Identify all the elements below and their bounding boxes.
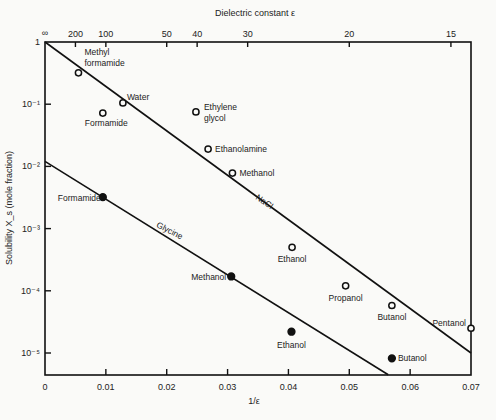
y-axis-ticks: 110⁻¹10⁻²10⁻³10⁻⁴10⁻⁵	[21, 37, 51, 358]
point-label: Formamide	[58, 193, 101, 203]
x-axis-label: 1/ε	[248, 396, 260, 406]
y-tick-label: 10⁻⁴	[21, 286, 40, 296]
y-tick-label: 10⁻²	[22, 161, 40, 171]
y-tick-label: 10⁻¹	[22, 99, 40, 109]
x-tick-label: 0.04	[280, 382, 298, 392]
point-label: Pentanol	[432, 318, 466, 328]
x-tick-label: 0.07	[462, 382, 480, 392]
data-point-nacl	[205, 146, 211, 152]
data-point-nacl	[75, 70, 81, 76]
x-tick-label: 0.03	[219, 382, 237, 392]
data-point-nacl	[100, 110, 106, 116]
data-point-glycine	[228, 273, 235, 280]
data-point-nacl	[120, 100, 126, 106]
point-label: Ethanol	[277, 340, 306, 350]
top-tick-label: 40	[192, 29, 202, 39]
data-point-nacl	[343, 283, 349, 289]
point-label: Ethyleneglycol	[204, 102, 237, 123]
data-point-nacl	[229, 170, 235, 176]
point-label: Formamide	[85, 118, 128, 128]
x-tick-label: 0.06	[401, 382, 419, 392]
top-tick-label: ∞	[42, 28, 48, 38]
x-axis-ticks: 00.010.020.030.040.050.060.07	[42, 369, 479, 392]
top-tick-label: 100	[98, 29, 113, 39]
top-tick-label: 200	[68, 29, 83, 39]
top-axis-ticks: ∞2001005040302015	[42, 28, 456, 47]
point-label: Water	[127, 92, 150, 102]
series-annotations: NaClGlycine	[155, 192, 275, 241]
regression-lines	[45, 42, 471, 375]
data-point-nacl	[468, 325, 474, 331]
x-tick-label: 0.01	[97, 382, 115, 392]
top-axis-label: Dielectric constant ε	[215, 8, 295, 18]
top-tick-label: 15	[446, 29, 456, 39]
y-tick-label: 10⁻³	[22, 224, 40, 234]
data-point-nacl	[289, 244, 295, 250]
point-label: Propanol	[329, 293, 363, 303]
x-tick-label: 0.05	[341, 382, 359, 392]
data-point-glycine	[288, 328, 295, 335]
data-point-nacl	[389, 302, 395, 308]
point-label: Butanol	[377, 312, 406, 322]
plot-frame	[45, 42, 471, 375]
top-tick-label: 30	[243, 29, 253, 39]
x-tick-label: 0.02	[158, 382, 176, 392]
top-tick-label: 20	[344, 29, 354, 39]
data-point-glycine	[388, 355, 395, 362]
point-label: Methylformamide	[84, 47, 124, 68]
point-label: Ethanol	[278, 254, 307, 264]
point-label: Ethanolamine	[215, 144, 267, 154]
y-axis-label: Solubility X_s (mole fraction)	[4, 151, 14, 265]
point-label: Methanol	[191, 272, 226, 282]
point-label: Butanol	[398, 353, 427, 363]
solubility-chart: Dielectric constant ε ∞2001005040302015 …	[0, 0, 496, 420]
x-tick-label: 0	[42, 382, 47, 392]
data-point-nacl	[193, 109, 199, 115]
y-tick-label: 10⁻⁵	[21, 348, 40, 358]
top-tick-label: 50	[162, 29, 172, 39]
y-tick-label: 1	[35, 37, 40, 47]
point-label: Methanol	[239, 168, 274, 178]
